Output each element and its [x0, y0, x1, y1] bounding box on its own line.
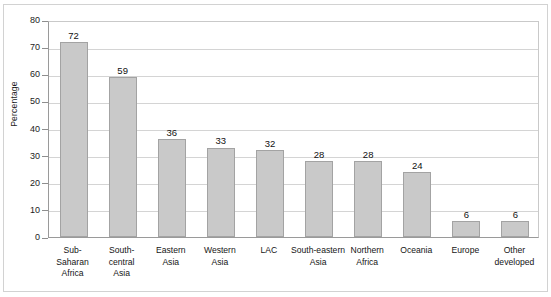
- bar: [109, 77, 137, 237]
- y-axis-label: 0: [0, 233, 40, 242]
- y-axis-tick: [42, 183, 48, 184]
- y-axis-tick: [42, 21, 48, 22]
- bar-value-label: 24: [397, 161, 437, 171]
- y-axis-label: 20: [0, 179, 40, 188]
- y-axis-label: 80: [0, 16, 40, 25]
- y-axis-tick: [42, 238, 48, 239]
- figure-frame-top: [3, 4, 548, 5]
- bar: [60, 42, 88, 237]
- bar: [403, 172, 431, 237]
- y-axis-label: 10: [0, 206, 40, 215]
- bar-value-label: 6: [495, 210, 535, 220]
- figure-frame-bottom: [3, 291, 548, 292]
- bar-value-label: 28: [348, 150, 388, 160]
- bar-value-label: 36: [152, 128, 192, 138]
- y-axis-tick: [42, 75, 48, 76]
- y-axis-label: 30: [0, 152, 40, 161]
- bar: [256, 150, 284, 237]
- bar: [452, 221, 480, 237]
- bar: [354, 161, 382, 237]
- bar: [158, 139, 186, 237]
- y-axis-label: 40: [0, 125, 40, 134]
- bar-value-label: 6: [446, 210, 486, 220]
- bar: [305, 161, 333, 237]
- bar: [207, 148, 235, 238]
- bar-value-label: 72: [54, 31, 94, 41]
- y-axis-tick: [42, 102, 48, 103]
- y-axis-label: 60: [0, 70, 40, 79]
- bar-value-label: 32: [250, 139, 290, 149]
- y-axis-tick: [42, 156, 48, 157]
- bar-value-label: 28: [299, 150, 339, 160]
- gridline: [49, 49, 538, 50]
- y-axis-label: 70: [0, 43, 40, 52]
- bar-value-label: 59: [103, 66, 143, 76]
- y-axis-tick: [42, 48, 48, 49]
- y-axis-tick: [42, 129, 48, 130]
- bar: [501, 221, 529, 237]
- bar-value-label: 33: [201, 136, 241, 146]
- x-axis-category-label: Other developed: [476, 245, 551, 268]
- y-axis-label: 50: [0, 97, 40, 106]
- y-axis-tick: [42, 210, 48, 211]
- chart-figure: Percentage 725936333228282466 Sub- Sahar…: [0, 0, 551, 297]
- plot-area: 725936333228282466: [48, 21, 539, 238]
